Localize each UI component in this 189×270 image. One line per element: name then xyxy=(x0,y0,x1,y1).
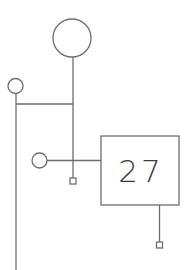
node-box-label: 27 xyxy=(118,153,163,189)
middle-small-circle xyxy=(32,153,47,168)
top-large-circle xyxy=(53,19,91,57)
left-small-circle xyxy=(8,79,23,94)
tree-diagram: 27 xyxy=(0,0,189,270)
terminal-square-box xyxy=(157,242,163,248)
terminal-square-middle xyxy=(70,178,76,184)
